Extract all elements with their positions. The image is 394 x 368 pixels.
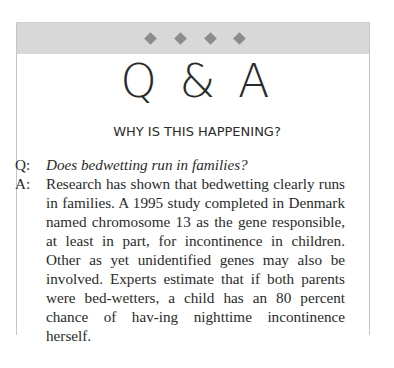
- answer-label: A:: [15, 174, 46, 345]
- diamond-ornament-icon: [174, 32, 187, 45]
- header-band: [17, 23, 369, 54]
- diamond-ornament-icon: [144, 32, 157, 45]
- question-text: Does bedwetting run in families?: [46, 155, 248, 174]
- answer-row: A: Research has shown that bedwetting cl…: [15, 174, 345, 345]
- answer-text: Research has shown that bedwetting clear…: [46, 174, 345, 345]
- diamond-ornament-icon: [233, 32, 246, 45]
- qa-block: Q: Does bedwetting run in families? A: R…: [15, 155, 345, 345]
- question-label: Q:: [15, 155, 46, 174]
- section-subtitle: WHY IS THIS HAPPENING?: [0, 124, 394, 139]
- diamond-ornament-icon: [204, 32, 217, 45]
- page-title: Q & A: [0, 56, 394, 106]
- question-row: Q: Does bedwetting run in families?: [15, 155, 345, 174]
